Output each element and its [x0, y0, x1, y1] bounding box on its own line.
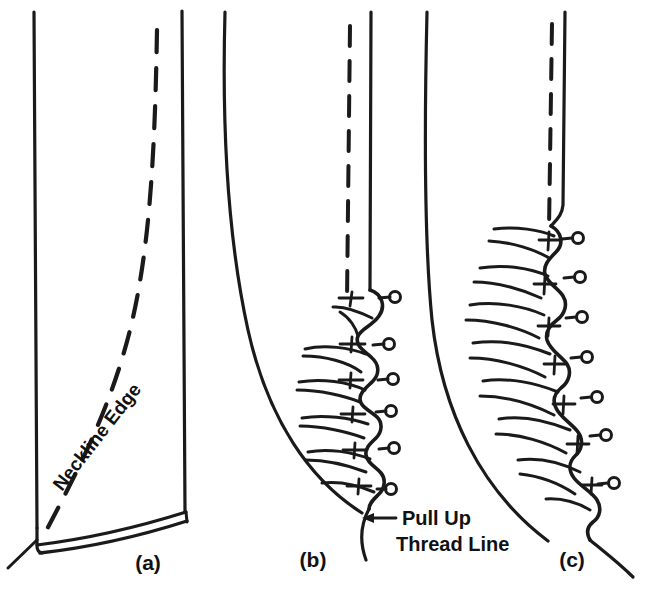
panel-a-right-edge — [182, 11, 185, 512]
neckline-edge-label: Neckline Edge — [49, 379, 146, 494]
panel-c-outer-curve — [425, 12, 548, 541]
panel-c-gather-folds — [466, 228, 590, 510]
panel-b-stitch-line — [347, 26, 350, 300]
thread-line-label: Thread Line — [396, 533, 509, 555]
panel-c: (c) — [425, 12, 633, 577]
figure-root: Neckline Edge (a) — [0, 0, 645, 593]
pull-up-label: Pull Up — [402, 507, 471, 529]
panel-b-inner-edge — [370, 12, 371, 290]
panel-c-pull-thread — [590, 540, 633, 577]
panel-label-a: (a) — [135, 551, 161, 574]
diagram-canvas: Neckline Edge (a) — [0, 0, 645, 593]
panel-a-left-edge — [34, 12, 37, 528]
panel-b: Pull Up Thread Line (b) — [224, 12, 509, 571]
panel-a-basting-line — [45, 30, 157, 533]
panel-b-gather-chain — [357, 290, 384, 509]
panel-b-thread-loops — [373, 292, 401, 495]
panel-c-thread-loops — [562, 233, 620, 489]
panel-label-b: (b) — [300, 548, 327, 571]
panel-c-stitch-line — [549, 24, 552, 230]
panel-a-fold-lower — [40, 521, 187, 553]
panel-b-outer-curve — [224, 12, 362, 513]
panel-a: Neckline Edge (a) — [8, 11, 187, 574]
panel-a-fold-right-cap — [186, 512, 187, 522]
panel-a-thread-tail — [8, 540, 37, 568]
panel-label-c: (c) — [559, 548, 585, 571]
